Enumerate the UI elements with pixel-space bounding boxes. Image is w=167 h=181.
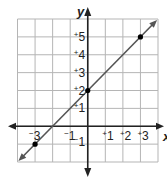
x-tick-label: +1 <box>102 129 114 143</box>
y-tick-label: +5 <box>74 30 86 44</box>
y-tick-label: +4 <box>74 48 86 62</box>
data-point <box>138 34 143 39</box>
x-tick-label: +2 <box>120 129 132 143</box>
data-point <box>85 88 90 93</box>
y-axis-down-arrow-icon <box>84 168 91 177</box>
coordinate-plane: −3−1+1+2+3+5+4+3+2+1−1 y x <box>0 0 167 181</box>
y-tick-label: +1 <box>74 101 86 115</box>
y-tick-label: +3 <box>74 66 86 80</box>
y-axis-up-arrow-icon <box>84 7 91 16</box>
x-tick-label: −3 <box>29 129 41 143</box>
y-tick-label: +2 <box>74 84 86 98</box>
y-tick-label: −1 <box>74 135 86 149</box>
y-axis-label: y <box>76 4 85 19</box>
x-axis-left-arrow-icon <box>8 123 16 130</box>
x-tick-label: +3 <box>137 129 149 143</box>
x-axis-label: x <box>162 129 167 144</box>
